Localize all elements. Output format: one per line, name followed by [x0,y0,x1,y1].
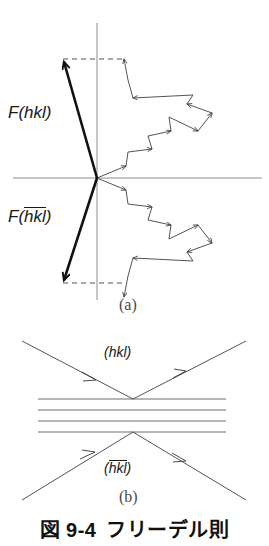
upper-phasor-chain [97,59,212,178]
lattice-planes [38,399,226,432]
figure-container: F(hkl) F(hkl) (hkl) (hkl) (a) (b) 図 9-4フ… [0,0,269,546]
label-structure-factor-hkl-bar: F(hkl) [8,208,51,225]
panel-label-a: (a) [119,297,137,313]
top-ray-arrowheads [82,369,186,381]
label-plane-hkl: (hkl) [104,345,131,359]
panel-a-graphics [13,23,262,300]
figure-caption-title: フリーデル則 [106,518,229,542]
top-rays [22,341,246,399]
resultant-vector-F-hkl [64,62,97,178]
lower-phasor-chain [97,178,212,297]
figure-graphics [0,0,269,546]
diffracted-ray-top [133,341,246,399]
label-plane-hkl-bar: (hkl) [104,461,131,475]
panel-label-b: (b) [119,489,138,505]
figure-caption-number: 図 9-4 [40,519,97,541]
bottom-ray-arrowheads [80,450,186,462]
diffracted-ray-bottom [133,432,246,500]
panel-b-graphics [22,341,246,500]
label-structure-factor-hkl: F(hkl) [8,104,51,121]
figure-caption: 図 9-4フリーデル則 [0,514,269,543]
resultant-vector-F-hkl-bar [64,178,97,280]
